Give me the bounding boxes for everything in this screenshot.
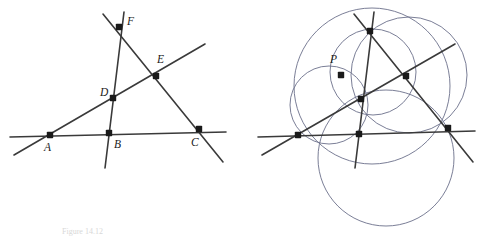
vertex-point-D	[110, 95, 116, 101]
vertex-label-B: B	[114, 138, 121, 150]
vertex-label-D: D	[99, 86, 109, 98]
vertex-point-P	[338, 72, 344, 78]
vertex-point-C2	[445, 125, 451, 131]
vertex-point-F	[116, 24, 122, 30]
vertex-label-A: A	[43, 141, 52, 153]
vertex-label-C: C	[191, 136, 199, 148]
vertex-point-D2	[358, 96, 364, 102]
vertex-label-E: E	[156, 53, 164, 65]
figure-background	[0, 0, 490, 237]
vertex-point-E	[153, 73, 159, 79]
vertex-point-B2	[356, 131, 362, 137]
vertex-point-B	[106, 130, 112, 136]
vertex-point-F2	[367, 28, 373, 34]
vertex-point-C	[196, 126, 202, 132]
vertex-label-P: P	[329, 53, 337, 65]
vertex-label-F: F	[126, 15, 135, 27]
vertex-point-E2	[403, 73, 409, 79]
geometry-figure: ABCDEF P Figure 14.12	[0, 0, 490, 237]
figure-caption: Figure 14.12	[62, 227, 103, 236]
vertex-point-A2	[295, 132, 301, 138]
figure-container: ABCDEF P Figure 14.12	[0, 0, 490, 237]
vertex-point-A	[47, 132, 53, 138]
right-panel-labels: P	[329, 53, 337, 65]
